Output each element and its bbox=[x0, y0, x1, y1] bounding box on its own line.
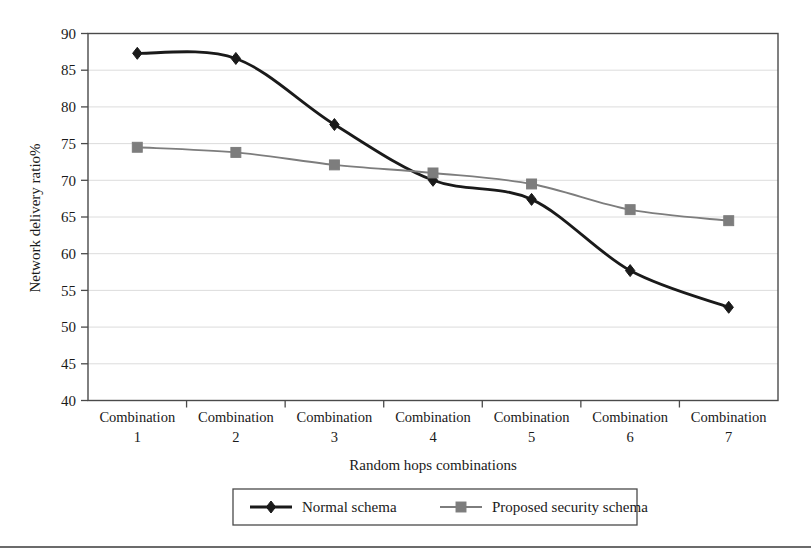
series-data-point bbox=[132, 142, 142, 152]
x-category-label: Combination1 bbox=[99, 409, 175, 445]
x-category-label-line: Combination bbox=[99, 409, 175, 425]
x-category-label-line: Combination bbox=[297, 409, 373, 425]
x-category-label: Combination6 bbox=[592, 409, 668, 445]
x-category-label-line: Combination bbox=[592, 409, 668, 425]
x-category-label: Combination5 bbox=[494, 409, 570, 445]
series-data-point bbox=[724, 216, 734, 226]
x-category-label: Combination2 bbox=[198, 409, 274, 445]
series-data-point bbox=[527, 193, 536, 205]
series-data-point bbox=[724, 301, 733, 313]
y-tick-label: 70 bbox=[61, 173, 76, 189]
y-tick-label: 55 bbox=[61, 283, 76, 299]
y-tick-label: 90 bbox=[61, 26, 76, 42]
x-category-label: Combination4 bbox=[395, 409, 471, 445]
series-data-point bbox=[329, 160, 339, 170]
x-category-label-line: 6 bbox=[627, 429, 634, 445]
x-category-labels-group: Combination1Combination2Combination3Comb… bbox=[99, 409, 767, 445]
x-axis-title: Random hops combinations bbox=[349, 457, 517, 473]
series-data-point bbox=[231, 52, 240, 64]
x-category-label-line: Combination bbox=[395, 409, 471, 425]
x-category-label: Combination7 bbox=[691, 409, 767, 445]
series-data-point bbox=[527, 179, 537, 189]
legend-marker-square-icon bbox=[456, 502, 466, 512]
y-tick-label: 60 bbox=[61, 246, 76, 262]
y-axis-title: Network delivery ratio% bbox=[27, 143, 43, 292]
y-tick-label: 45 bbox=[61, 356, 76, 372]
series-data-point bbox=[231, 147, 241, 157]
x-category-label-line: 3 bbox=[331, 429, 338, 445]
x-category-label-line: 2 bbox=[232, 429, 239, 445]
x-category-label-line: Combination bbox=[198, 409, 274, 425]
legend-label: Normal schema bbox=[302, 499, 397, 515]
series-data-point bbox=[625, 265, 634, 277]
chart-legend: Normal schemaProposed security schema bbox=[233, 489, 648, 525]
x-category-label-line: 5 bbox=[528, 429, 535, 445]
series-data-point bbox=[625, 205, 635, 215]
y-tick-label: 80 bbox=[61, 99, 76, 115]
y-tick-marks-group bbox=[81, 34, 88, 401]
y-tick-label: 85 bbox=[61, 62, 76, 78]
series-data-point bbox=[428, 168, 438, 178]
y-tick-label: 65 bbox=[61, 209, 76, 225]
x-category-label-line: 1 bbox=[134, 429, 141, 445]
series-data-point bbox=[133, 47, 142, 59]
y-tick-label: 50 bbox=[61, 319, 76, 335]
legend-label: Proposed security schema bbox=[492, 499, 648, 515]
x-tick-marks-group bbox=[187, 401, 680, 408]
x-category-label-line: 4 bbox=[429, 429, 437, 445]
series-data-point bbox=[330, 119, 339, 131]
x-category-label-line: Combination bbox=[494, 409, 570, 425]
x-category-label-line: 7 bbox=[725, 429, 732, 445]
chart-figure: Network delivery ratio% 4045505560657075… bbox=[0, 0, 811, 560]
network-delivery-ratio-line-chart: Network delivery ratio% 4045505560657075… bbox=[0, 0, 811, 560]
y-axis-title-text: Network delivery ratio% bbox=[27, 143, 43, 292]
y-gridlines-group bbox=[88, 34, 778, 401]
x-category-label: Combination3 bbox=[297, 409, 373, 445]
y-tick-labels-group: 4045505560657075808590 bbox=[61, 26, 76, 409]
y-tick-label: 75 bbox=[61, 136, 76, 152]
y-tick-label: 40 bbox=[61, 393, 76, 409]
x-category-label-line: Combination bbox=[691, 409, 767, 425]
